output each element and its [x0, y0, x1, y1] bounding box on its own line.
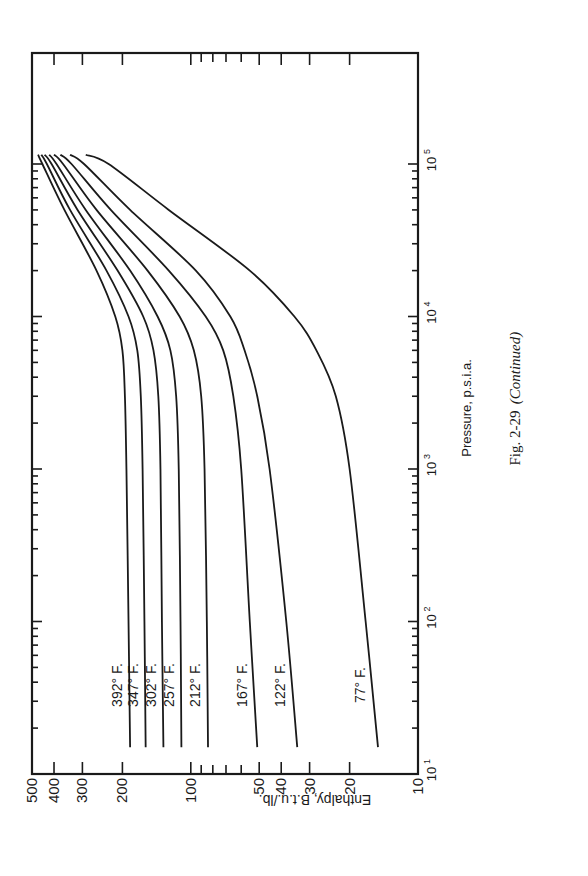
pressure-tick-label: 101 [422, 759, 439, 781]
isotherm-curve [38, 155, 130, 747]
isotherm-curve [41, 155, 145, 747]
axis-ticks [32, 53, 418, 774]
isotherm-curves [38, 155, 378, 747]
svg-text:5: 5 [422, 149, 432, 154]
enthalpy-tick-label: 300 [73, 778, 90, 803]
curve-labels: 392° F.347° F.302° F.257° F.212° F.167° … [109, 663, 368, 707]
curve-label: 257° F. [161, 663, 177, 707]
svg-text:10: 10 [424, 462, 439, 476]
svg-text:4: 4 [422, 301, 432, 306]
curve-label: 302° F. [143, 663, 159, 707]
figure-caption: Fig. 2-29 (Continued) [507, 332, 524, 466]
enthalpy-tick-label: 100 [182, 778, 199, 803]
pressure-tick-label: 104 [422, 301, 439, 323]
curve-label: 347° F. [125, 663, 141, 707]
caption-number: Fig. 2-29 [507, 410, 523, 465]
svg-text:10: 10 [424, 614, 439, 628]
enthalpy-pressure-chart: 392° F.347° F.302° F.257° F.212° F.167° … [0, 0, 588, 876]
curve-label: 212° F. [187, 663, 203, 707]
svg-text:3: 3 [422, 454, 432, 459]
svg-text:10: 10 [424, 309, 439, 323]
plot-frame [32, 53, 418, 774]
enthalpy-tick-label: 200 [113, 778, 130, 803]
curve-label: 122° F. [272, 663, 288, 707]
pressure-tick-label: 103 [422, 454, 439, 476]
svg-text:10: 10 [424, 767, 439, 781]
caption-note: (Continued) [507, 332, 524, 405]
curve-label: 392° F. [109, 663, 125, 707]
curve-label: 167° F. [234, 663, 250, 707]
svg-text:10: 10 [424, 157, 439, 171]
enthalpy-axis-label: Enthalpy, B.t.u./lb. [259, 792, 372, 808]
pressure-tick-label: 102 [422, 606, 439, 628]
enthalpy-tick-label: 500 [23, 778, 40, 803]
pressure-axis-label: Pressure, p.s.i.a. [459, 359, 474, 457]
svg-text:1: 1 [422, 759, 432, 764]
pressure-tick-label: 105 [422, 149, 439, 171]
isotherm-curve [54, 155, 208, 747]
svg-text:2: 2 [422, 606, 432, 611]
isotherm-curve [70, 155, 297, 747]
curve-label: 77° F. [352, 667, 368, 703]
pressure-tick-labels: 101102103104105 [422, 149, 439, 781]
enthalpy-tick-label: 400 [45, 778, 62, 803]
